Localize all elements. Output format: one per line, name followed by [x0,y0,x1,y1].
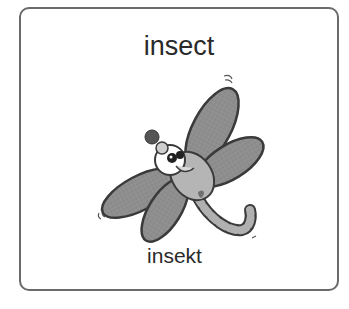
card-title: insect [21,31,337,62]
dragonfly-illustration [90,70,270,245]
card-subtitle: insekt [0,244,349,268]
